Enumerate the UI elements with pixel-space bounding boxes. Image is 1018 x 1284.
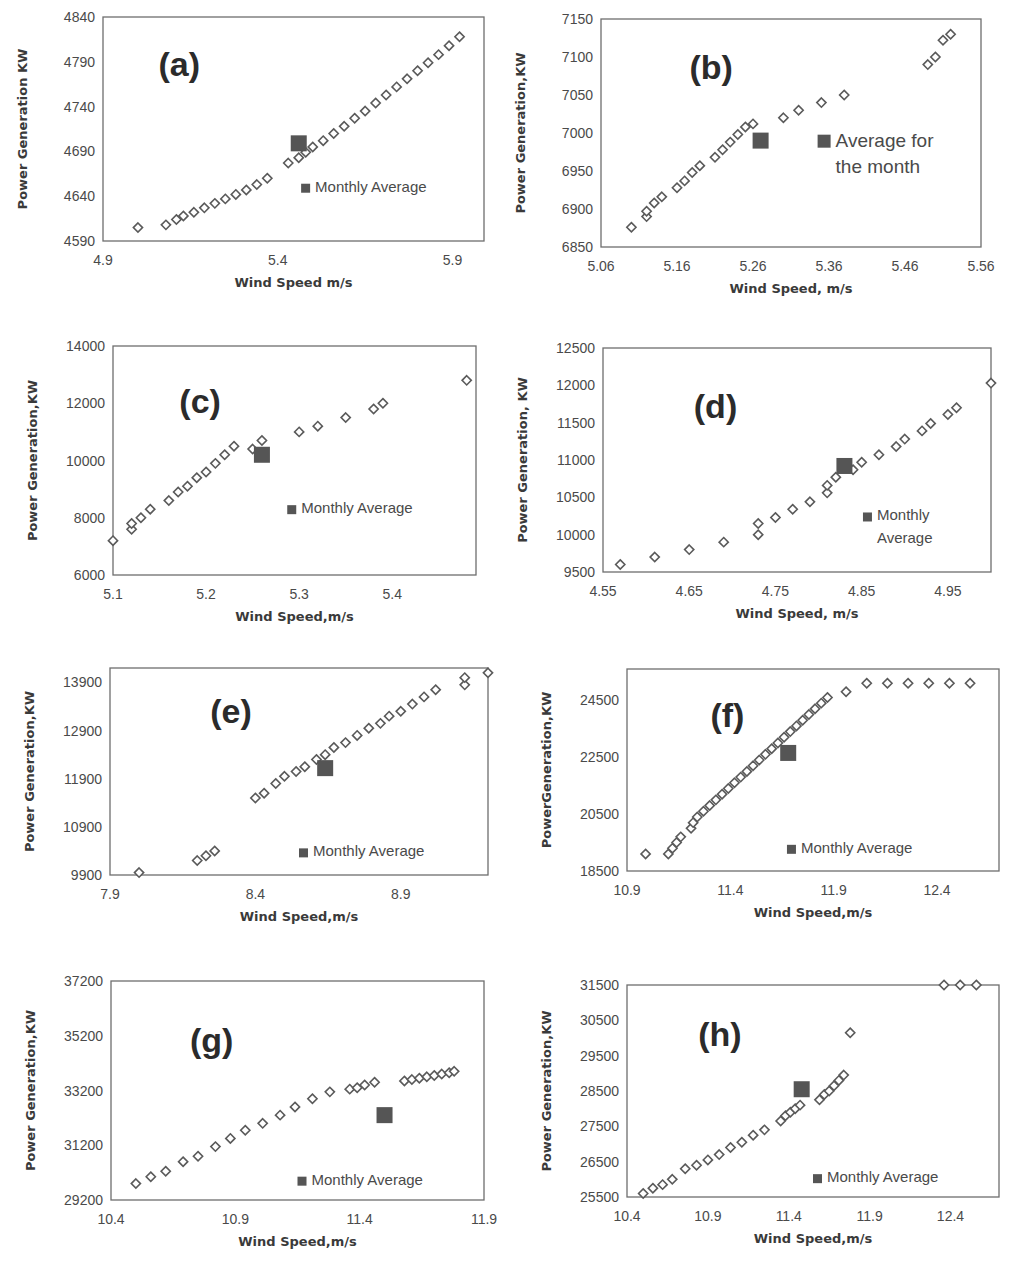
y-tick-label: 29500 <box>580 1048 619 1064</box>
y-tick-label: 30500 <box>580 1012 619 1028</box>
y-tick-label: 31500 <box>580 977 619 993</box>
scatter-plot-h: 2550026500275002850029500305003150010.41… <box>0 0 1018 1284</box>
y-axis-label: Power Generation,KW <box>539 1010 554 1171</box>
legend-swatch <box>813 1174 822 1183</box>
panel-label: (h) <box>698 1015 741 1053</box>
y-tick-label: 27500 <box>580 1118 619 1134</box>
plot-area <box>627 985 999 1197</box>
y-tick-label: 25500 <box>580 1189 619 1205</box>
monthly-average-marker <box>794 1081 810 1097</box>
x-tick-label: 11.4 <box>776 1208 802 1224</box>
y-tick-label: 28500 <box>580 1083 619 1099</box>
x-tick-label: 10.4 <box>613 1208 640 1224</box>
x-axis-label: Wind Speed,m/s <box>754 1231 873 1246</box>
x-tick-label: 12.4 <box>937 1208 964 1224</box>
x-tick-label: 11.9 <box>856 1208 882 1224</box>
chart-panel-h: 2550026500275002850029500305003150010.41… <box>0 0 1018 1284</box>
legend-text: Monthly Average <box>827 1168 938 1185</box>
x-tick-label: 10.9 <box>694 1208 721 1224</box>
y-tick-label: 26500 <box>580 1154 619 1170</box>
